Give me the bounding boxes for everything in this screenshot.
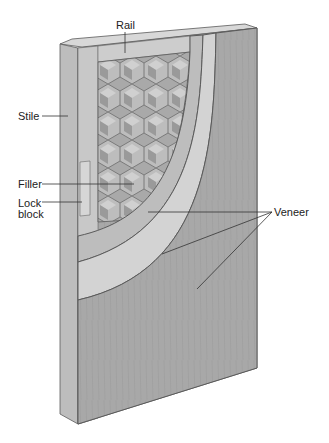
door-cutaway-diagram <box>0 0 329 443</box>
label-stile: Stile <box>18 110 39 122</box>
label-rail: Rail <box>116 19 135 31</box>
label-lock-block-line2: block <box>18 208 44 220</box>
label-veneer: Veneer <box>274 206 309 218</box>
stile-side-face <box>60 44 78 424</box>
label-filler: Filler <box>18 178 42 190</box>
lock-block <box>80 161 90 216</box>
